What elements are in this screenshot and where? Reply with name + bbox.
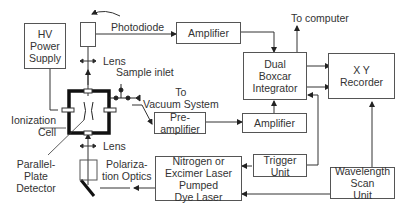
ionization-cell-label: Ionization Cell [6,114,56,138]
trigger-unit-block: Trigger Unit [253,154,307,177]
to-computer-label: To computer [291,12,349,24]
preamplifier-block: Pre- amplifier [154,112,206,134]
dual-boxcar-integrator-block: Dual Boxcar Integrator [243,52,307,100]
sample-inlet-label: Sample inlet [116,66,174,78]
amplifier-top-block: Amplifier [176,22,241,44]
photodiode-label: Photodiode [111,21,164,33]
to-vacuum-system-label: To Vacuum System [143,86,219,110]
xy-recorder-block: X Y Recorder [328,53,395,99]
wavelength-scan-unit-block: Wavelength Scan Unit [330,167,395,199]
amplifier-mid-block: Amplifier [242,113,307,133]
photodiode-box [80,22,96,47]
polarization-optics-label: Polariza- tion Optics [102,158,152,182]
dye-laser-block: Nitrogen or Excimer Laser Pumped Dye Las… [155,156,242,201]
hv-power-supply-block: HV Power Supply [24,23,66,69]
lens-bottom-label: Lens [103,140,126,152]
parallel-plate-detector-label: Parallel- Plate Detector [14,158,58,194]
